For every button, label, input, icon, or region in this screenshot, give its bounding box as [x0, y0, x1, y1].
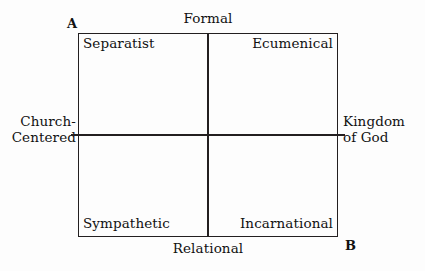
quadrant-diagram: Formal A Church- Centered Kingdom of God… — [0, 0, 425, 271]
divider-horizontal-line — [71, 134, 345, 136]
corner-marker-a: A — [67, 17, 77, 30]
axis-label-kingdom-of-god-line-2: of God — [343, 129, 405, 145]
corner-marker-b: B — [345, 239, 356, 252]
axis-label-church-centered-line-1: Church- — [12, 113, 76, 129]
quadrant-label-sympathetic: Sympathetic — [83, 216, 170, 232]
quadrant-bottom-left: Sympathetic — [83, 140, 205, 232]
axis-label-church-centered: Church- Centered — [12, 113, 76, 145]
quadrant-label-separatist: Separatist — [83, 36, 155, 52]
quadrant-bottom-right: Incarnational — [212, 140, 333, 232]
axis-label-kingdom-of-god-line-1: Kingdom — [343, 113, 405, 129]
axis-label-formal: Formal — [0, 10, 416, 26]
quadrant-label-incarnational: Incarnational — [240, 216, 333, 232]
quadrant-label-ecumenical: Ecumenical — [252, 36, 333, 52]
axis-label-kingdom-of-god: Kingdom of God — [343, 113, 405, 145]
quadrant-top-right: Ecumenical — [212, 36, 333, 128]
quadrant-top-left: Separatist — [83, 36, 205, 128]
axis-label-church-centered-line-2: Centered — [12, 129, 76, 145]
